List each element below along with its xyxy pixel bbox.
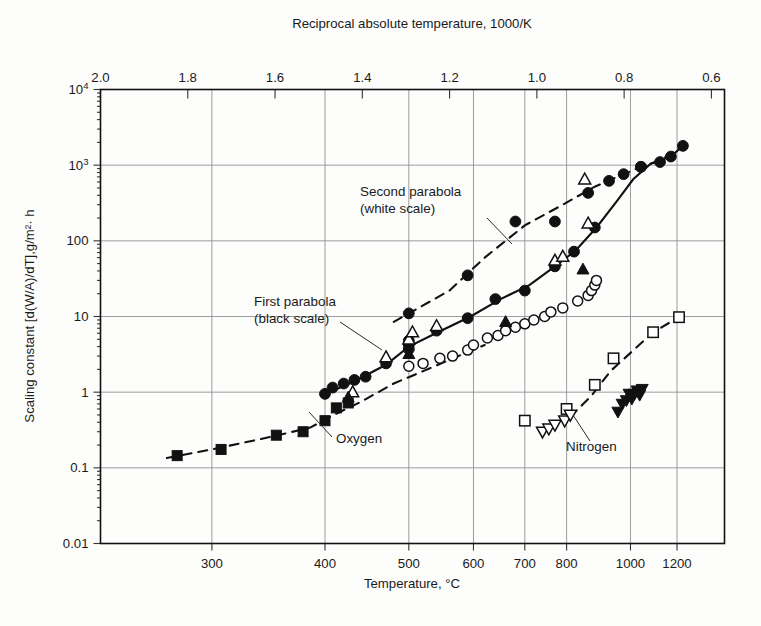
data-point-open-circle bbox=[482, 333, 492, 343]
data-point-filled-square bbox=[216, 444, 226, 454]
data-point-filled-square bbox=[172, 451, 182, 461]
data-point-open-circle bbox=[404, 361, 414, 371]
x-tick-label-bottom: 400 bbox=[314, 556, 336, 571]
data-point-filled-circle bbox=[550, 216, 561, 227]
second-parabola-label: Second parabola bbox=[360, 184, 462, 199]
data-point-filled-circle bbox=[490, 294, 501, 305]
data-point-filled-circle bbox=[338, 378, 349, 389]
data-point-filled-circle bbox=[665, 151, 676, 162]
x-axis-title: Temperature, °C bbox=[364, 576, 461, 591]
data-point-open-circle bbox=[591, 275, 601, 285]
y-axis-title: Scaling constant [d(W/A)/dT],g/m²· h bbox=[22, 209, 37, 422]
x-tick-label-bottom: 800 bbox=[556, 556, 578, 571]
y-tick-label: 100 bbox=[66, 233, 88, 248]
data-point-open-square bbox=[590, 380, 600, 390]
data-point-filled-circle bbox=[327, 382, 338, 393]
x-tick-label-bottom: 300 bbox=[201, 556, 223, 571]
data-point-filled-circle bbox=[360, 371, 371, 382]
first-parabola-label: First parabola bbox=[254, 294, 336, 309]
data-point-open-square bbox=[520, 415, 530, 425]
data-point-open-circle bbox=[468, 340, 478, 350]
x-tick-label-bottom: 500 bbox=[398, 556, 420, 571]
data-point-filled-square bbox=[320, 416, 330, 426]
data-point-filled-circle bbox=[403, 308, 414, 319]
data-point-filled-square bbox=[331, 403, 341, 413]
x-tick-label-bottom: 1200 bbox=[662, 556, 691, 571]
data-point-filled-circle bbox=[349, 375, 360, 386]
data-point-open-circle bbox=[448, 351, 458, 361]
top-axis-title: Reciprocal absolute temperature, 1000/K bbox=[292, 16, 532, 31]
data-point-filled-circle bbox=[583, 188, 594, 199]
x-tick-label-top: 2.0 bbox=[91, 70, 109, 85]
data-point-open-circle bbox=[529, 315, 539, 325]
data-point-filled-circle bbox=[604, 175, 615, 186]
data-point-open-circle bbox=[501, 326, 511, 336]
data-point-filled-circle bbox=[462, 270, 473, 281]
data-point-filled-square bbox=[298, 427, 308, 437]
oxygen-label: Oxygen bbox=[336, 431, 382, 446]
data-point-filled-square bbox=[271, 430, 281, 440]
x-tick-label-top: 0.8 bbox=[615, 70, 633, 85]
data-point-open-square bbox=[674, 312, 684, 322]
x-tick-label-top: 0.6 bbox=[702, 70, 720, 85]
figure-background bbox=[0, 0, 761, 626]
x-tick-label-bottom: 700 bbox=[514, 556, 536, 571]
second-parabola-sublabel: (white scale) bbox=[360, 201, 435, 216]
data-point-filled-circle bbox=[678, 140, 689, 151]
x-tick-label-top: 1.2 bbox=[440, 70, 458, 85]
data-point-open-circle bbox=[558, 303, 568, 313]
first-parabola-sublabel: (black scale) bbox=[254, 311, 329, 326]
x-tick-label-bottom: 600 bbox=[462, 556, 484, 571]
data-point-filled-circle bbox=[569, 246, 580, 257]
data-point-open-circle bbox=[573, 296, 583, 306]
chart-figure: Reciprocal absolute temperature, 1000/K … bbox=[0, 0, 761, 626]
data-point-filled-circle bbox=[655, 157, 666, 168]
data-point-open-circle bbox=[418, 358, 428, 368]
y-tick-label: 0.01 bbox=[63, 536, 89, 551]
data-point-open-square bbox=[608, 353, 618, 363]
y-tick-label: 10 bbox=[74, 309, 89, 324]
y-tick-label: 0.1 bbox=[70, 460, 88, 475]
data-point-filled-circle bbox=[636, 161, 647, 172]
data-point-filled-circle bbox=[510, 216, 521, 227]
scaling-constant-scatter-plot: Reciprocal absolute temperature, 1000/K … bbox=[0, 0, 761, 626]
data-point-open-square bbox=[648, 327, 658, 337]
y-tick-label: 1 bbox=[81, 385, 88, 400]
data-point-open-circle bbox=[510, 322, 520, 332]
data-point-open-circle bbox=[546, 307, 556, 317]
x-tick-label-top: 1.6 bbox=[266, 70, 284, 85]
x-tick-label-top: 1.4 bbox=[353, 70, 371, 85]
x-tick-label-bottom: 1000 bbox=[616, 556, 645, 571]
x-tick-label-top: 1.8 bbox=[179, 70, 197, 85]
x-tick-label-top: 1.0 bbox=[528, 70, 546, 85]
data-point-filled-circle bbox=[618, 169, 629, 180]
data-point-filled-circle bbox=[519, 285, 530, 296]
nitrogen-label: Nitrogen bbox=[566, 439, 617, 454]
data-point-open-circle bbox=[435, 353, 445, 363]
data-point-filled-circle bbox=[462, 313, 473, 324]
